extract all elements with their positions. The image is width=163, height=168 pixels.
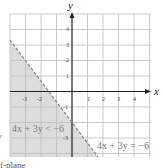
x-tick-label: 4 <box>133 96 136 102</box>
x-axis-arrow-icon <box>145 89 151 94</box>
y-axis-label: y <box>68 0 73 11</box>
x-tick-label: 3 <box>117 96 120 102</box>
y-tick-label: 2 <box>66 57 69 63</box>
x-tick-label: -2 <box>37 96 42 102</box>
left-margin-mark: r <box>0 133 2 139</box>
boundary-label: 4x + 3y = −6 <box>97 141 149 151</box>
y-tick-label: 3 <box>66 42 69 48</box>
y-tick-label: 4 <box>66 26 69 32</box>
x-axis-label: x <box>154 86 159 97</box>
y-tick-label: -3 <box>63 135 68 141</box>
region-label: 4x + 3y < −6 <box>12 124 64 134</box>
caption-fragment: f-plane <box>0 161 25 168</box>
y-tick-label: -1 <box>63 104 68 110</box>
y-axis-arrow-icon <box>70 12 75 18</box>
x-tick-label: 1 <box>87 96 90 102</box>
x-tick-label: 2 <box>102 96 105 102</box>
y-tick-label: 1 <box>66 73 69 79</box>
x-tick-label: -3 <box>22 96 27 102</box>
